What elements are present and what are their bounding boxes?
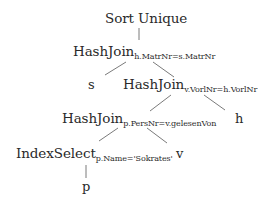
relation-v-label: v <box>176 146 183 161</box>
hashjoin-matrnr-label: HashJoin <box>73 43 134 59</box>
edge-hashjoin2-to-h <box>204 95 225 110</box>
edge-hashjoin2-to-hashjoin3 <box>150 95 171 111</box>
hashjoin-vorlnr-node: HashJoinv.VorlNr=h.VorlNr <box>123 78 257 92</box>
tree-edges <box>0 0 260 199</box>
query-plan-diagram: Sort Unique HashJoinh.MatrNr=s.MatrNr s … <box>0 0 260 199</box>
edge-hashjoin3-to-indexselect <box>99 128 118 141</box>
relation-v-node: v <box>176 147 183 160</box>
relation-p-node: p <box>82 180 90 193</box>
hashjoin-vorlnr-condition: v.VorlNr=h.VorlNr <box>184 85 257 94</box>
relation-h-node: h <box>235 112 243 125</box>
hashjoin-matrnr-condition: h.MatrNr=s.MatrNr <box>134 52 215 61</box>
indexselect-condition: p.Name='Sokrates' <box>96 154 173 163</box>
relation-s-label: s <box>88 77 95 92</box>
relation-p-label: p <box>82 179 90 194</box>
hashjoin-persnr-condition: p.PersNr=v.gelesenVon <box>123 119 216 128</box>
hashjoin-vorlnr-label: HashJoin <box>123 76 184 92</box>
sort-unique-label: Sort Unique <box>105 10 187 26</box>
indexselect-node: IndexSelectp.Name='Sokrates' <box>16 147 173 161</box>
hashjoin-persnr-node: HashJoinp.PersNr=v.gelesenVon <box>62 112 216 126</box>
hashjoin-matrnr-node: HashJoinh.MatrNr=s.MatrNr <box>73 45 215 59</box>
relation-s-node: s <box>88 78 95 91</box>
indexselect-label: IndexSelect <box>16 145 96 161</box>
edge-hashjoin1-to-hashjoin2 <box>153 62 174 77</box>
relation-h-label: h <box>235 111 243 126</box>
edge-hashjoin1-to-s <box>105 62 126 75</box>
sort-unique-node: Sort Unique <box>105 12 187 26</box>
edge-hashjoin3-to-v <box>147 128 167 143</box>
hashjoin-persnr-label: HashJoin <box>62 110 123 126</box>
